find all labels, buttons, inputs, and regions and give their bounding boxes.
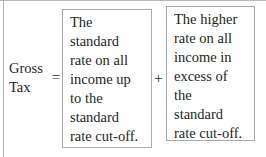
term-1-line-2: standard — [70, 32, 149, 51]
term-2-line-1: The higher — [174, 10, 252, 29]
term-2-line-4: excess of — [174, 67, 252, 86]
term-2-line-5: the — [174, 86, 252, 105]
term-box-higher-rate-band: The higher rate on all income in excess … — [166, 6, 255, 141]
term-1-line-5: to the — [70, 89, 149, 108]
term-2-line-7: rate cut-off. — [174, 124, 252, 141]
formula-left-side-line-2: Tax — [9, 78, 53, 97]
plus-operator: + — [152, 69, 165, 88]
term-1-line-6: standard — [70, 108, 149, 127]
equals-operator: = — [50, 68, 62, 87]
term-1-line-1: The — [70, 13, 149, 32]
term-1-line-3: rate on all — [70, 51, 149, 70]
formula-left-side-line-1: Gross — [9, 59, 53, 78]
term-box-higher-rate-band-text: The higher rate on all income in excess … — [174, 10, 252, 141]
term-2-line-2: rate on all — [174, 29, 252, 48]
term-2-line-6: standard — [174, 105, 252, 124]
term-1-line-7: rate cut-off. — [70, 127, 149, 146]
gross-tax-formula-diagram: Gross Tax = The standard rate on all inc… — [0, 0, 266, 157]
term-2-line-3: income in — [174, 48, 252, 67]
term-box-standard-rate-band-text: The standard rate on all income up to th… — [70, 13, 149, 146]
formula-left-side-label: Gross Tax — [9, 59, 53, 97]
term-box-standard-rate-band: The standard rate on all income up to th… — [62, 9, 152, 148]
term-1-line-4: income up — [70, 70, 149, 89]
